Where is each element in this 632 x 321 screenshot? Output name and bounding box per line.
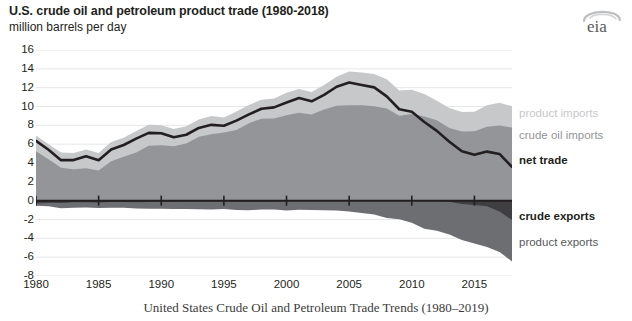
x-axis-tick-label: 2015 <box>454 278 494 290</box>
y-axis-tick-label: 12 <box>4 82 34 94</box>
x-axis-tick-label: 2000 <box>267 278 307 290</box>
y-axis-tick-label: -6 <box>4 251 34 263</box>
legend-item-product-imports: product imports <box>519 107 598 119</box>
x-axis-tick-label: 2005 <box>329 278 369 290</box>
eia-logo-icon: eia <box>578 6 624 36</box>
y-axis-tick-label: -4 <box>4 232 34 244</box>
x-axis-tick-label: 1980 <box>16 278 56 290</box>
y-axis-tick-label: 6 <box>4 138 34 150</box>
x-axis: 19801985199019952000200520102015 <box>0 278 632 296</box>
y-axis-tick-label: 16 <box>4 44 34 56</box>
x-axis-tick-label: 1995 <box>204 278 244 290</box>
plot-area <box>36 50 512 276</box>
y-axis-tick-label: 2 <box>4 176 34 188</box>
x-axis-tick-label: 1990 <box>141 278 181 290</box>
y-axis-tick-label: 4 <box>4 157 34 169</box>
chart-figure: U.S. crude oil and petroleum product tra… <box>0 0 632 321</box>
y-axis: 1614121086420-2-4-6-8 <box>0 0 34 290</box>
svg-text:eia: eia <box>587 17 607 36</box>
y-axis-tick-label: -2 <box>4 214 34 226</box>
chart-plot <box>36 50 512 276</box>
legend-item-product-exports: product exports <box>519 236 598 248</box>
y-axis-tick-label: 14 <box>4 63 34 75</box>
page-title: U.S. crude oil and petroleum product tra… <box>9 4 329 18</box>
x-axis-tick-label: 2010 <box>392 278 432 290</box>
y-axis-tick-label: 8 <box>4 119 34 131</box>
legend-item-net-trade: net trade <box>519 154 568 166</box>
legend-item-crude-oil-imports: crude oil imports <box>519 129 603 141</box>
x-axis-tick-label: 1985 <box>79 278 119 290</box>
y-axis-tick-label: 0 <box>4 195 34 207</box>
y-axis-tick-label: 10 <box>4 101 34 113</box>
figure-caption: United States Crude Oil and Petroleum Tr… <box>0 300 632 316</box>
legend-item-crude-exports: crude exports <box>519 210 595 222</box>
